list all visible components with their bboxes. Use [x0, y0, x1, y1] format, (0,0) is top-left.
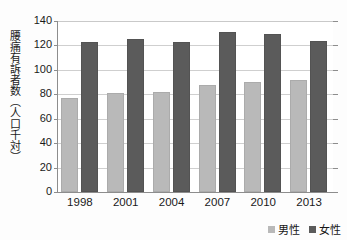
y-axis-tick-right — [333, 21, 338, 22]
y-axis-tick-right — [333, 192, 338, 193]
y-axis-tick-label: 0 — [24, 185, 52, 197]
y-axis-tick-label: 140 — [24, 14, 52, 26]
bar-男性-2007 — [199, 85, 216, 192]
y-axis-tick-label: 100 — [24, 63, 52, 75]
y-axis-tick-labels: 020406080100120140 — [24, 21, 52, 192]
bar-group — [241, 21, 287, 192]
x-axis-tick-label: 2013 — [286, 196, 332, 208]
legend-label: 女性 — [319, 221, 341, 237]
bar-group — [150, 21, 196, 192]
plot-area — [57, 21, 333, 193]
x-axis-tick-label: 2001 — [103, 196, 149, 208]
bar-男性-2013 — [290, 80, 307, 192]
female-swatch-icon — [309, 226, 316, 233]
bar-group — [58, 21, 104, 192]
bar-group — [104, 21, 150, 192]
x-axis-tick-label: 2007 — [195, 196, 241, 208]
y-axis-tick-label: 60 — [24, 112, 52, 124]
y-axis-tick-right — [333, 143, 338, 144]
y-axis-tick-right — [333, 70, 338, 71]
y-axis-tick-right — [333, 168, 338, 169]
bar-女性-2013 — [310, 41, 327, 192]
x-axis-tick-label: 2004 — [149, 196, 195, 208]
legend-item-男性[interactable]: 男性 — [268, 221, 300, 237]
bar-女性-2001 — [127, 39, 144, 192]
male-swatch-icon — [268, 226, 275, 233]
x-axis-tick-labels: 199820012004200720102013 — [57, 196, 332, 212]
bar-男性-1998 — [61, 98, 78, 192]
y-axis-tick-right — [333, 119, 338, 120]
chart-legend: 男性女性 — [268, 221, 341, 237]
legend-item-女性[interactable]: 女性 — [309, 221, 341, 237]
bar-男性-2004 — [153, 92, 170, 192]
y-axis-tick — [54, 192, 58, 193]
y-axis-tick-label: 20 — [24, 161, 52, 173]
bar-女性-1998 — [81, 42, 98, 192]
y-axis-tick-label: 40 — [24, 136, 52, 148]
y-axis-tick-label: 120 — [24, 38, 52, 50]
bar-group — [196, 21, 242, 192]
y-axis-title: 腰痛有訴者数（人口千対） — [2, 6, 20, 186]
bar-group — [287, 21, 333, 192]
x-axis-tick-label: 2010 — [240, 196, 286, 208]
bar-女性-2010 — [264, 34, 281, 192]
bar-男性-2001 — [107, 93, 124, 192]
bar-女性-2004 — [173, 42, 190, 192]
bar-男性-2010 — [244, 82, 261, 192]
y-axis-tick-right — [333, 94, 338, 95]
bar-chart: 腰痛有訴者数（人口千対） 020406080100120140 19982001… — [0, 0, 347, 240]
y-axis-tick-label: 80 — [24, 87, 52, 99]
bar-女性-2007 — [219, 32, 236, 192]
x-axis-tick-label: 1998 — [57, 196, 103, 208]
legend-label: 男性 — [278, 221, 300, 237]
y-axis-tick-right — [333, 45, 338, 46]
